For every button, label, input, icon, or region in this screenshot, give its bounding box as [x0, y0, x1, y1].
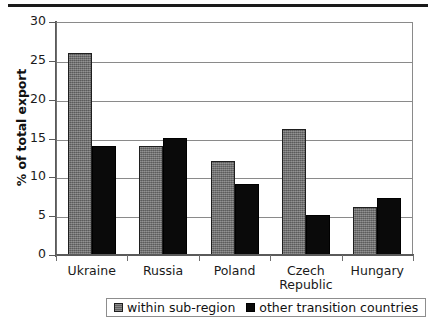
y-axis-tick — [49, 61, 56, 62]
bar-poland-series-1 — [235, 184, 259, 255]
x-axis-category-label-czech-republic: CzechRepublic — [270, 264, 341, 292]
x-axis-category-label-ukraine: Ukraine — [56, 264, 127, 278]
bar-ukraine-series-1 — [92, 146, 116, 256]
bar-ukraine-series-0 — [68, 53, 92, 255]
x-axis-category-label-line: Czech — [270, 264, 341, 278]
top-divider-rule — [8, 4, 428, 7]
chart-legend: within sub-regionother transition countr… — [106, 298, 426, 317]
bar-czech-republic-series-1 — [306, 215, 330, 255]
x-axis-category-label-line: Hungary — [342, 264, 413, 278]
y-axis-tick-label: 10 — [10, 170, 46, 182]
bar-czech-republic-series-0 — [282, 129, 306, 255]
x-axis-tick — [199, 255, 200, 261]
x-axis-category-label-line: Poland — [199, 264, 270, 278]
x-axis-category-label-hungary: Hungary — [342, 264, 413, 278]
legend-item-0: within sub-region — [114, 301, 235, 314]
y-axis-tick — [49, 100, 56, 101]
y-axis-tick — [49, 22, 56, 23]
legend-item-1: other transition countries — [246, 301, 418, 314]
x-axis-tick — [127, 255, 128, 261]
bars-layer — [56, 22, 413, 255]
legend-swatch-icon — [246, 303, 255, 312]
y-axis-tick-label: 5 — [10, 209, 46, 221]
bar-russia-series-1 — [163, 138, 187, 255]
x-axis-tick — [270, 255, 271, 261]
x-axis-tick — [342, 255, 343, 261]
y-axis-tick-label: 25 — [10, 54, 46, 66]
y-axis-tick-label: 20 — [10, 93, 46, 105]
y-axis-tick-label: 30 — [10, 15, 46, 27]
legend-label: within sub-region — [127, 301, 235, 314]
bar-poland-series-0 — [211, 161, 235, 255]
x-axis-tick — [56, 255, 57, 261]
legend-swatch-icon — [114, 303, 123, 312]
y-axis-tick-label: 15 — [10, 132, 46, 144]
x-axis-tick — [413, 255, 414, 261]
y-axis-tick-label: 0 — [10, 248, 46, 260]
x-axis-category-label-line: Ukraine — [56, 264, 127, 278]
y-axis-tick — [49, 216, 56, 217]
y-axis-tick — [49, 177, 56, 178]
chart-figure: % of total export 051015202530 UkraineRu… — [0, 0, 433, 335]
x-axis-line — [55, 254, 414, 256]
bar-hungary-series-1 — [377, 198, 401, 255]
bar-hungary-series-0 — [353, 207, 377, 255]
bar-russia-series-0 — [139, 146, 163, 256]
x-axis-category-label-line: Russia — [127, 264, 198, 278]
x-axis-category-label-line: Republic — [270, 278, 341, 292]
x-axis-category-label-russia: Russia — [127, 264, 198, 278]
x-axis-category-label-poland: Poland — [199, 264, 270, 278]
y-axis-tick — [49, 139, 56, 140]
legend-label: other transition countries — [259, 301, 418, 314]
